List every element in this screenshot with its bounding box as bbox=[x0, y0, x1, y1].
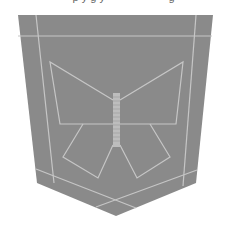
product-image: · · · p y g y · · · · · · · · · g bbox=[0, 0, 227, 227]
pocket-illustration bbox=[0, 0, 227, 227]
